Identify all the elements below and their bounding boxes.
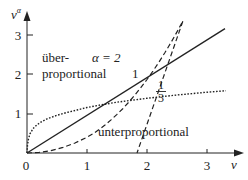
y-tick-label-2: 2 xyxy=(15,67,22,82)
x-tick-label-0: 0 xyxy=(23,158,30,173)
y-tick-label-1: 1 xyxy=(15,106,22,121)
y-axis-arrow-icon xyxy=(24,11,31,21)
x-axis-arrow-icon xyxy=(234,150,244,157)
x-axis-label: v xyxy=(231,157,237,172)
y-tick-label-3: 3 xyxy=(15,28,22,43)
x-tick-label-2: 2 xyxy=(144,158,151,173)
y-axis-label-exp: α xyxy=(17,6,22,15)
y-axis-label: vα xyxy=(11,6,22,22)
linear-label: 1 xyxy=(132,66,139,81)
alpha-label: α = 2 xyxy=(92,50,121,65)
ueber-label-line2: proportional xyxy=(42,66,107,81)
power-function-chart: 0 1 2 3 1 2 3 v vα über- proportional un… xyxy=(0,0,248,180)
third-label-denominator: 3 xyxy=(158,91,164,105)
ueber-label-line1: über- xyxy=(42,50,69,65)
third-label-numerator: 1 xyxy=(158,78,164,92)
x-tick-label-1: 1 xyxy=(84,158,91,173)
annotations: über- proportional unterproportional α =… xyxy=(42,50,189,139)
x-tick-label-3: 3 xyxy=(204,158,211,173)
unter-label: unterproportional xyxy=(98,124,189,139)
cube-root-curve xyxy=(27,91,226,153)
